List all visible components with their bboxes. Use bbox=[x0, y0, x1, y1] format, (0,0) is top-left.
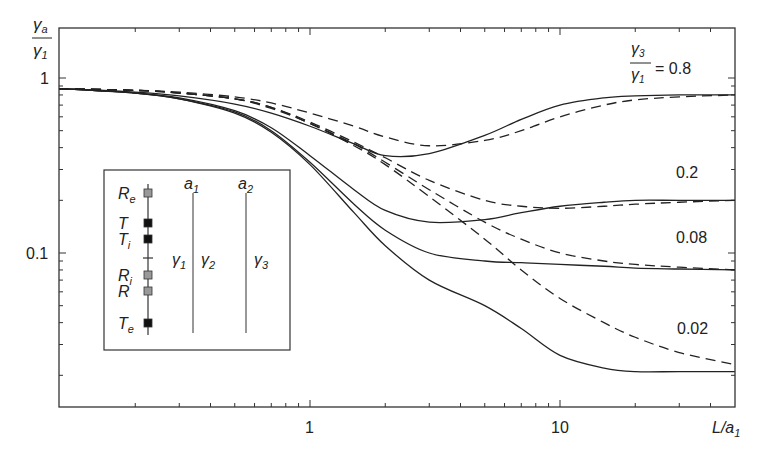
x-axis-label: L/a1 bbox=[712, 419, 740, 439]
inset-schematic: ReTTiRiRTe a1 a2 γ1 γ2 γ3 bbox=[104, 170, 290, 350]
svg-text:γ3: γ3 bbox=[631, 40, 645, 59]
marker-Ti bbox=[144, 235, 152, 243]
chart: γa γ1 1 0.1 1 10 L/a1 γ3 γ1 = 0.8 0.2 0.… bbox=[0, 0, 765, 453]
annotation-0.08: 0.08 bbox=[676, 229, 707, 246]
legend-ratio-label: γ3 γ1 = 0.8 bbox=[630, 40, 691, 85]
x-tick-label-1: 1 bbox=[305, 419, 314, 436]
marker-label-T: T bbox=[118, 215, 129, 232]
curve-1-dashed bbox=[59, 89, 735, 146]
annotation-0.02: 0.02 bbox=[677, 320, 708, 337]
marker-T bbox=[144, 219, 152, 227]
svg-text:γ1: γ1 bbox=[631, 66, 645, 85]
svg-text:= 0.8: = 0.8 bbox=[655, 60, 691, 77]
marker-Re bbox=[144, 189, 152, 197]
svg-text:γa: γa bbox=[33, 15, 48, 35]
svg-text:γ1: γ1 bbox=[33, 41, 48, 61]
y-axis-label: γa γ1 bbox=[32, 15, 52, 61]
marker-label-R: R bbox=[118, 283, 130, 300]
y-tick-label-0.1: 0.1 bbox=[26, 245, 48, 262]
marker-R bbox=[144, 287, 152, 295]
annotation-0.2: 0.2 bbox=[676, 164, 698, 181]
x-tick-label-10: 10 bbox=[551, 419, 569, 436]
y-tick-label-1: 1 bbox=[40, 70, 49, 87]
marker-Ri bbox=[144, 271, 152, 279]
curve-0-solid bbox=[59, 89, 735, 157]
marker-Te bbox=[144, 319, 152, 327]
